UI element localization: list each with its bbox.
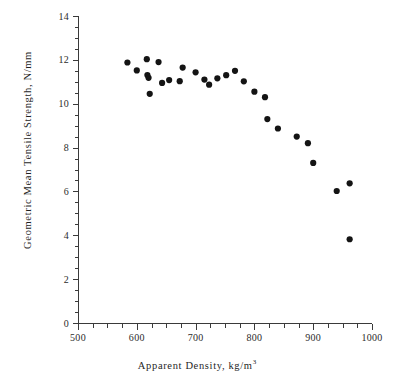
- x-axis-title-exponent: 3: [253, 358, 257, 366]
- data-point: [241, 78, 247, 84]
- data-point: [177, 78, 183, 84]
- x-tick-label: 900: [305, 332, 321, 343]
- data-point: [193, 69, 199, 75]
- data-point: [159, 80, 165, 86]
- x-tick-label: 1000: [361, 332, 382, 343]
- data-point: [134, 67, 140, 73]
- data-point: [214, 75, 220, 81]
- plot-canvas: 02468101214 5006007008009001000: [0, 0, 394, 382]
- y-tick-label: 12: [58, 54, 69, 65]
- scatter-plot-figure: 02468101214 5006007008009001000 Apparent…: [0, 0, 394, 382]
- y-axis: 02468101214: [58, 11, 78, 329]
- data-point: [251, 89, 257, 95]
- data-point: [275, 125, 281, 131]
- x-axis-title-text: Apparent Density, kg/m: [138, 360, 253, 371]
- y-tick-label: 10: [58, 98, 69, 109]
- y-tick-label: 2: [64, 274, 69, 285]
- data-point: [223, 72, 229, 78]
- data-point: [155, 59, 161, 65]
- data-point: [144, 56, 150, 62]
- data-point: [180, 64, 186, 70]
- y-tick-label: 8: [64, 142, 69, 153]
- data-point: [206, 82, 212, 88]
- y-tick-label: 6: [64, 186, 69, 197]
- data-point: [232, 68, 238, 74]
- data-point: [347, 180, 353, 186]
- data-point: [305, 140, 311, 146]
- x-tick-label: 500: [70, 332, 86, 343]
- x-tick-label: 800: [246, 332, 262, 343]
- data-point: [147, 91, 153, 97]
- x-tick-label: 600: [129, 332, 145, 343]
- data-point: [347, 236, 353, 242]
- y-tick-label: 4: [64, 230, 69, 241]
- data-point: [145, 75, 151, 81]
- x-tick-label: 700: [188, 332, 204, 343]
- x-axis-title: Apparent Density, kg/m3: [0, 358, 394, 371]
- y-tick-label: 14: [58, 11, 69, 22]
- data-point: [334, 188, 340, 194]
- data-point: [201, 76, 207, 82]
- y-axis-title: Geometric Mean Tensile Strength, N/mm: [22, 0, 33, 300]
- data-point: [310, 160, 316, 166]
- data-point: [262, 94, 268, 100]
- data-point: [124, 59, 130, 65]
- y-tick-label: 0: [64, 318, 69, 329]
- data-point: [294, 134, 300, 140]
- data-points-layer: [124, 56, 352, 242]
- data-point: [166, 77, 172, 83]
- x-axis: 5006007008009001000: [70, 324, 383, 344]
- data-point: [264, 116, 270, 122]
